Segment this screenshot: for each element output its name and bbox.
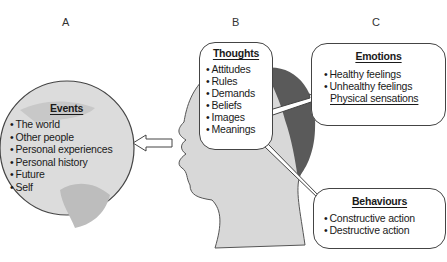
emotions-box: Emotions Healthy feelings Unhealthy feel…: [311, 43, 446, 126]
thoughts-box: Thoughts Attitudes Rules Demands Beliefs…: [199, 42, 273, 150]
behaviours-box: Behaviours Constructive action Destructi…: [313, 188, 446, 249]
behaviours-item: Destructive action: [324, 224, 437, 236]
thoughts-item: Attitudes: [206, 63, 266, 75]
emotions-item: Unhealthy feelings: [324, 80, 435, 92]
events-panel: Events The world Other people Personal e…: [10, 102, 130, 193]
events-item: The world: [10, 118, 130, 131]
thoughts-title: Thoughts: [206, 47, 266, 59]
behaviours-item: Constructive action: [324, 212, 437, 224]
emotions-title: Emotions: [322, 50, 435, 62]
thoughts-item: Demands: [206, 87, 266, 99]
thoughts-item: Images: [206, 111, 266, 123]
thoughts-item: Meanings: [206, 123, 266, 135]
events-title: Events: [50, 102, 130, 114]
emotions-extra: Physical sensations: [330, 92, 435, 104]
thoughts-list: Attitudes Rules Demands Beliefs Images M…: [206, 63, 266, 135]
behaviours-list: Constructive action Destructive action: [322, 212, 437, 236]
emotions-item: Healthy feelings: [324, 68, 435, 80]
events-item: Future: [10, 168, 130, 181]
emotions-list: Healthy feelings Unhealthy feelings: [322, 68, 435, 92]
thoughts-item: Beliefs: [206, 99, 266, 111]
arrow-left-icon: [133, 135, 172, 151]
events-list: The world Other people Personal experien…: [10, 118, 130, 193]
events-item: Self: [10, 181, 130, 194]
events-item: Personal history: [10, 156, 130, 169]
events-item: Personal experiences: [10, 143, 130, 156]
events-item: Other people: [10, 131, 130, 144]
thoughts-item: Rules: [206, 75, 266, 87]
behaviours-title: Behaviours: [322, 195, 437, 207]
